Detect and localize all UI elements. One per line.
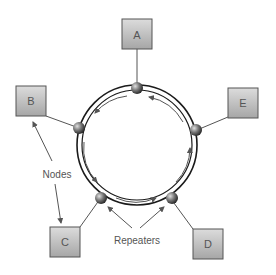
node-label: B: [27, 95, 34, 107]
node-label: A: [133, 29, 141, 41]
ring: [77, 85, 197, 205]
node-e: E: [228, 88, 258, 118]
node-b: B: [16, 86, 46, 116]
node-label: C: [61, 236, 69, 248]
nodes-label: Nodes: [43, 169, 72, 180]
repeater-icon: [131, 82, 143, 94]
link-c: [80, 199, 100, 227]
repeater-icon: [73, 122, 85, 134]
node-a: A: [122, 19, 152, 49]
node-c: C: [50, 227, 80, 257]
repeater-icon: [166, 192, 178, 204]
node-label: E: [239, 97, 246, 109]
repeaters-annotation: [108, 207, 164, 228]
node-label: D: [204, 238, 212, 250]
ring-topology-diagram: A B C D E Nodes Repeaters: [0, 0, 276, 275]
node-d: D: [193, 229, 223, 259]
repeaters-label: Repeaters: [114, 235, 160, 246]
repeater-icon: [190, 124, 202, 136]
repeater-icon: [95, 192, 107, 204]
